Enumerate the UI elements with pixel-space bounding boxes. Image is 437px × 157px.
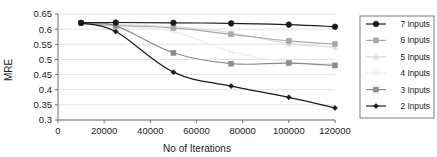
- legend-marker: [374, 38, 379, 43]
- chart-container: 0.30.350.40.450.50.550.60.65 02000040000…: [0, 0, 437, 157]
- x-tick-label: 60000: [183, 125, 209, 136]
- data-point: [171, 25, 176, 30]
- data-point: [228, 21, 234, 27]
- y-tick-label: 0.35: [34, 99, 53, 110]
- x-tick-label: 80000: [229, 125, 255, 136]
- data-point: [333, 63, 338, 68]
- y-tick-label: 0.45: [34, 69, 53, 80]
- y-tick-label: 0.4: [39, 84, 52, 95]
- legend-label: 3 Inputs: [400, 85, 430, 95]
- data-point: [171, 20, 177, 26]
- y-axis-title: MRE: [3, 59, 14, 82]
- data-point: [332, 24, 338, 30]
- legend-marker: [374, 87, 379, 92]
- x-tick-label: 20000: [91, 125, 117, 136]
- line-chart: 0.30.350.40.450.50.550.60.65 02000040000…: [0, 0, 437, 157]
- data-point: [171, 50, 176, 55]
- x-tick-label: 100000: [273, 125, 305, 136]
- chart-legend: 7 Inputs6 Inputs5 Inputs4 Inputs3 Inputs…: [360, 16, 434, 118]
- y-tick-label: 0.5: [39, 54, 52, 65]
- x-axis-title: No of Iterations: [163, 143, 231, 154]
- data-point: [229, 32, 234, 37]
- x-tick-label: 0: [55, 125, 60, 136]
- legend-label: 4 Inputs: [400, 68, 430, 78]
- y-tick-label: 0.3: [39, 114, 52, 125]
- data-point: [286, 38, 291, 43]
- data-point: [286, 61, 291, 66]
- legend-label: 5 Inputs: [400, 52, 430, 62]
- x-tick-label: 40000: [137, 125, 163, 136]
- legend-label: 7 Inputs: [400, 19, 430, 29]
- data-point: [113, 20, 119, 26]
- data-point: [286, 22, 292, 28]
- y-tick-label: 0.65: [34, 8, 53, 19]
- data-point: [229, 61, 234, 66]
- x-tick-label: 120000: [319, 125, 351, 136]
- legend-label: 6 Inputs: [400, 35, 430, 45]
- data-point: [333, 41, 338, 46]
- y-tick-label: 0.55: [34, 39, 53, 50]
- y-tick-label: 0.6: [39, 24, 52, 35]
- legend-marker: [373, 21, 379, 27]
- legend-label: 2 Inputs: [400, 101, 430, 111]
